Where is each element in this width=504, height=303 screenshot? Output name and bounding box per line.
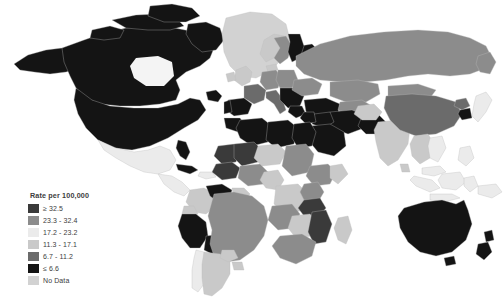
- legend-swatch-6: [28, 276, 39, 285]
- legend-label-3: 11.3 - 17.1: [43, 241, 77, 248]
- region-uruguay: [232, 262, 244, 270]
- legend-item-2[interactable]: 17.2 - 23.2: [28, 227, 120, 239]
- legend-item-5[interactable]: ≤ 6.6: [28, 263, 120, 275]
- world-choropleth-map-figure: Rate per 100,000 ≥ 32.5 23.3 - 32.4 17.2…: [0, 0, 504, 303]
- region-ireland: [226, 72, 236, 82]
- legend-swatch-5: [28, 264, 39, 273]
- legend-label-2: 17.2 - 23.2: [43, 229, 78, 236]
- legend-item-1[interactable]: 23.3 - 32.4: [28, 215, 120, 227]
- region-tasmania: [444, 256, 456, 266]
- map-legend: Rate per 100,000 ≥ 32.5 23.3 - 32.4 17.2…: [28, 191, 120, 287]
- legend-swatch-4: [28, 252, 39, 261]
- legend-label-0: ≥ 32.5: [43, 205, 63, 212]
- legend-label-4: 6.7 - 11.2: [43, 253, 73, 260]
- legend-title: Rate per 100,000: [30, 191, 120, 200]
- legend-item-0[interactable]: ≥ 32.5: [28, 203, 120, 215]
- legend-item-6[interactable]: No Data: [28, 275, 120, 287]
- legend-swatch-0: [28, 204, 39, 213]
- legend-label-5: ≤ 6.6: [43, 265, 59, 272]
- legend-item-4[interactable]: 6.7 - 11.2: [28, 251, 120, 263]
- legend-label-1: 23.3 - 32.4: [43, 217, 78, 224]
- legend-swatch-1: [28, 216, 39, 225]
- region-new-zealand-north: [484, 230, 494, 242]
- legend-item-3[interactable]: 11.3 - 17.1: [28, 239, 120, 251]
- legend-swatch-3: [28, 240, 39, 249]
- legend-label-6: No Data: [43, 277, 69, 284]
- legend-swatch-2: [28, 228, 39, 237]
